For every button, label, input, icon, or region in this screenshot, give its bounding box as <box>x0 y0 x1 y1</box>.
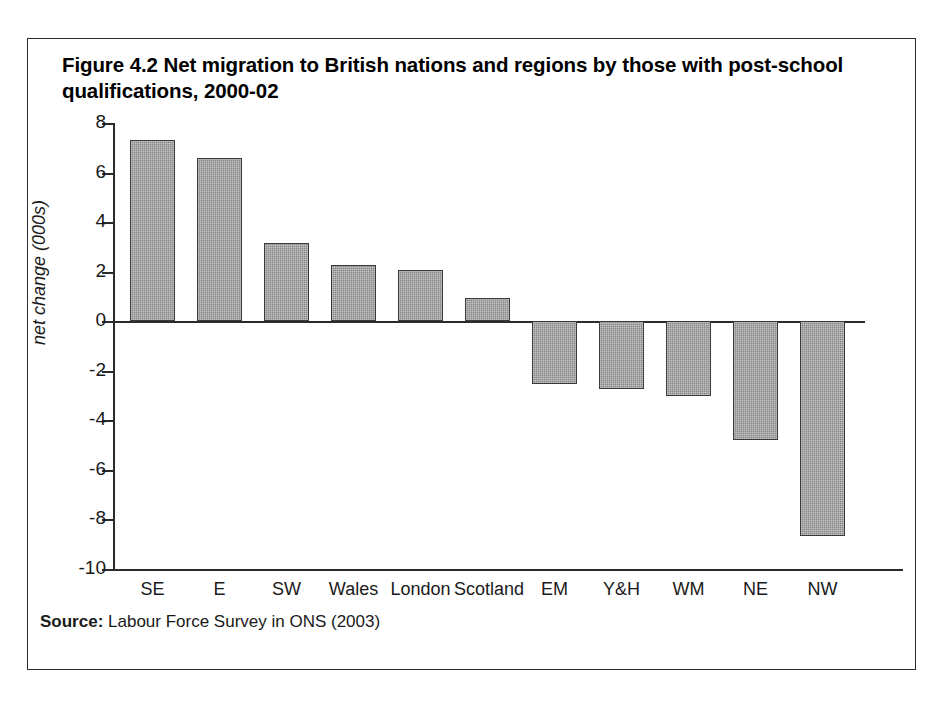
bar-nw[interactable] <box>800 321 845 535</box>
bar-e[interactable] <box>197 158 242 322</box>
y-tick-label: -4 <box>89 409 106 429</box>
category-label-yandh: Y&H <box>588 579 655 600</box>
y-tick-label: 6 <box>95 162 106 182</box>
bar-slot-wm <box>655 123 722 569</box>
bar-london[interactable] <box>398 270 443 321</box>
source-label: Source: <box>40 612 103 631</box>
category-label-se: SE <box>119 579 186 600</box>
figure-title: Figure 4.2 Net migration to British nati… <box>62 52 882 104</box>
bar-se[interactable] <box>130 140 175 321</box>
source-text: Labour Force Survey in ONS (2003) <box>103 612 380 631</box>
y-tick-label: 0 <box>95 310 106 330</box>
bar-ne[interactable] <box>733 321 778 440</box>
y-axis-line <box>113 123 115 569</box>
x-axis-line <box>113 569 903 571</box>
bar-wm[interactable] <box>666 321 711 395</box>
figure-frame: Figure 4.2 Net migration to British nati… <box>27 38 916 670</box>
category-label-nw: NW <box>789 579 856 600</box>
bar-slot-em <box>521 123 588 569</box>
bar-slot-wales <box>320 123 387 569</box>
category-label-sw: SW <box>253 579 320 600</box>
y-axis-title: net change (000s) <box>29 173 50 373</box>
y-tick-label: -10 <box>79 558 106 578</box>
bar-slot-yandh <box>588 123 655 569</box>
category-label-scotland: Scotland <box>454 579 521 600</box>
y-tick-label: -8 <box>89 508 106 528</box>
bar-em[interactable] <box>532 321 577 384</box>
bar-slot-london <box>387 123 454 569</box>
y-tick-label: 8 <box>95 112 106 132</box>
category-label-wm: WM <box>655 579 722 600</box>
bar-slot-nw <box>789 123 856 569</box>
y-tick-label: -6 <box>89 459 106 479</box>
category-label-wales: Wales <box>320 579 387 600</box>
y-tick-label: 2 <box>95 261 106 281</box>
bar-slot-scotland <box>454 123 521 569</box>
category-label-e: E <box>186 579 253 600</box>
source-note: Source: Labour Force Survey in ONS (2003… <box>40 612 380 632</box>
y-tick-label: -2 <box>89 360 106 380</box>
bar-slot-ne <box>722 123 789 569</box>
category-label-london: London <box>387 579 454 600</box>
bar-scotland[interactable] <box>465 298 510 322</box>
category-label-ne: NE <box>722 579 789 600</box>
bar-slot-se <box>119 123 186 569</box>
bar-slot-sw <box>253 123 320 569</box>
bar-sw[interactable] <box>264 243 309 321</box>
bar-yandh[interactable] <box>599 321 644 389</box>
bar-wales[interactable] <box>331 265 376 321</box>
y-tick-label: 4 <box>95 211 106 231</box>
bar-slot-e <box>186 123 253 569</box>
plot-area: 86420-2-4-6-8-10 net change (000s) SEESW… <box>113 123 903 569</box>
category-label-em: EM <box>521 579 588 600</box>
